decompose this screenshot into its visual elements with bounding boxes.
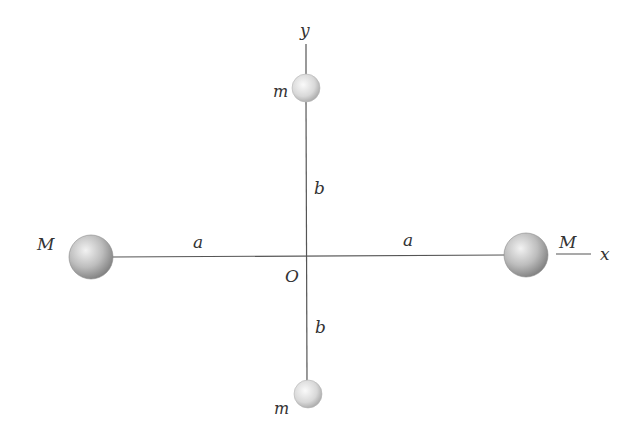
right-large-mass-sphere xyxy=(504,233,548,277)
y-axis-label: y xyxy=(299,20,310,40)
bottom-distance-label: b xyxy=(315,317,326,337)
right-distance-label: a xyxy=(403,230,413,250)
horizontal-rod xyxy=(112,255,505,257)
two-mass-configuration-diagram: y x m m M M a a b b O xyxy=(0,0,643,440)
top-small-mass-sphere xyxy=(292,74,320,102)
bottom-small-mass-sphere xyxy=(294,380,322,408)
origin-label: O xyxy=(285,266,299,286)
x-axis-label: x xyxy=(600,244,610,264)
bottom-mass-label: m xyxy=(274,399,289,418)
left-distance-label: a xyxy=(193,232,203,252)
right-mass-label: M xyxy=(558,232,577,252)
left-mass-label: M xyxy=(36,234,55,254)
top-mass-label: m xyxy=(273,82,288,101)
vertical-rod xyxy=(306,102,307,381)
top-distance-label: b xyxy=(314,178,325,198)
left-large-mass-sphere xyxy=(69,235,113,279)
